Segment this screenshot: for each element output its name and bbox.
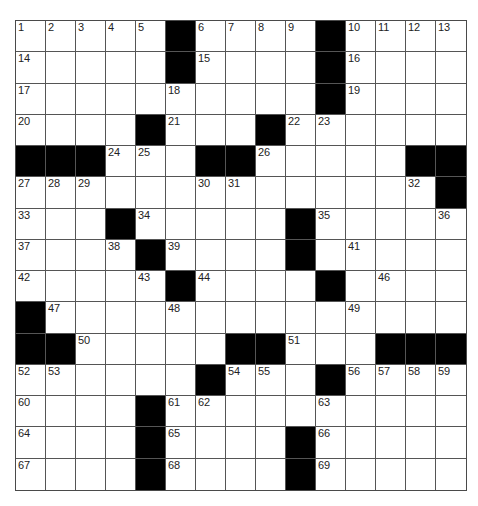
letter-cell[interactable] xyxy=(406,52,436,83)
letter-cell[interactable] xyxy=(76,365,106,396)
letter-cell[interactable]: 49 xyxy=(346,302,376,333)
letter-cell[interactable] xyxy=(136,84,166,115)
letter-cell[interactable]: 53 xyxy=(46,365,76,396)
letter-cell[interactable] xyxy=(286,177,316,208)
letter-cell[interactable]: 47 xyxy=(46,302,76,333)
letter-cell[interactable] xyxy=(436,459,466,490)
letter-cell[interactable] xyxy=(256,459,286,490)
letter-cell[interactable]: 68 xyxy=(166,459,196,490)
letter-cell[interactable] xyxy=(136,52,166,83)
letter-cell[interactable] xyxy=(106,427,136,458)
letter-cell[interactable] xyxy=(256,271,286,302)
letter-cell[interactable] xyxy=(226,427,256,458)
letter-cell[interactable] xyxy=(136,365,166,396)
letter-cell[interactable]: 16 xyxy=(346,52,376,83)
letter-cell[interactable] xyxy=(436,240,466,271)
letter-cell[interactable]: 7 xyxy=(226,21,256,52)
letter-cell[interactable] xyxy=(406,459,436,490)
letter-cell[interactable]: 12 xyxy=(406,21,436,52)
letter-cell[interactable]: 24 xyxy=(106,146,136,177)
letter-cell[interactable] xyxy=(406,427,436,458)
letter-cell[interactable] xyxy=(406,396,436,427)
letter-cell[interactable] xyxy=(376,302,406,333)
letter-cell[interactable] xyxy=(76,84,106,115)
letter-cell[interactable] xyxy=(376,52,406,83)
letter-cell[interactable] xyxy=(106,396,136,427)
letter-cell[interactable]: 31 xyxy=(226,177,256,208)
letter-cell[interactable] xyxy=(106,115,136,146)
letter-cell[interactable]: 2 xyxy=(46,21,76,52)
letter-cell[interactable]: 6 xyxy=(196,21,226,52)
letter-cell[interactable] xyxy=(376,459,406,490)
letter-cell[interactable] xyxy=(346,177,376,208)
letter-cell[interactable] xyxy=(106,365,136,396)
letter-cell[interactable] xyxy=(196,115,226,146)
letter-cell[interactable]: 55 xyxy=(256,365,286,396)
letter-cell[interactable] xyxy=(316,240,346,271)
letter-cell[interactable] xyxy=(406,302,436,333)
letter-cell[interactable]: 60 xyxy=(16,396,46,427)
letter-cell[interactable] xyxy=(76,459,106,490)
letter-cell[interactable] xyxy=(46,115,76,146)
letter-cell[interactable]: 50 xyxy=(76,334,106,365)
letter-cell[interactable]: 29 xyxy=(76,177,106,208)
letter-cell[interactable] xyxy=(76,240,106,271)
letter-cell[interactable] xyxy=(346,146,376,177)
letter-cell[interactable]: 59 xyxy=(436,365,466,396)
letter-cell[interactable] xyxy=(376,396,406,427)
letter-cell[interactable] xyxy=(376,84,406,115)
letter-cell[interactable] xyxy=(196,334,226,365)
letter-cell[interactable] xyxy=(226,52,256,83)
letter-cell[interactable] xyxy=(226,84,256,115)
letter-cell[interactable] xyxy=(46,209,76,240)
letter-cell[interactable] xyxy=(286,271,316,302)
letter-cell[interactable] xyxy=(106,84,136,115)
letter-cell[interactable]: 54 xyxy=(226,365,256,396)
letter-cell[interactable] xyxy=(316,334,346,365)
letter-cell[interactable] xyxy=(256,396,286,427)
letter-cell[interactable]: 13 xyxy=(436,21,466,52)
letter-cell[interactable] xyxy=(376,427,406,458)
letter-cell[interactable]: 33 xyxy=(16,209,46,240)
letter-cell[interactable]: 17 xyxy=(16,84,46,115)
letter-cell[interactable] xyxy=(256,302,286,333)
letter-cell[interactable] xyxy=(226,302,256,333)
letter-cell[interactable] xyxy=(406,209,436,240)
letter-cell[interactable] xyxy=(436,84,466,115)
letter-cell[interactable] xyxy=(406,271,436,302)
letter-cell[interactable] xyxy=(256,84,286,115)
letter-cell[interactable]: 4 xyxy=(106,21,136,52)
letter-cell[interactable] xyxy=(286,52,316,83)
letter-cell[interactable] xyxy=(196,427,226,458)
letter-cell[interactable]: 65 xyxy=(166,427,196,458)
letter-cell[interactable] xyxy=(106,334,136,365)
letter-cell[interactable] xyxy=(346,271,376,302)
letter-cell[interactable] xyxy=(346,209,376,240)
letter-cell[interactable] xyxy=(136,334,166,365)
letter-cell[interactable]: 3 xyxy=(76,21,106,52)
letter-cell[interactable] xyxy=(76,115,106,146)
letter-cell[interactable] xyxy=(46,52,76,83)
letter-cell[interactable] xyxy=(316,302,346,333)
letter-cell[interactable] xyxy=(106,271,136,302)
letter-cell[interactable]: 56 xyxy=(346,365,376,396)
letter-cell[interactable] xyxy=(196,240,226,271)
letter-cell[interactable]: 25 xyxy=(136,146,166,177)
letter-cell[interactable]: 48 xyxy=(166,302,196,333)
letter-cell[interactable] xyxy=(106,52,136,83)
letter-cell[interactable] xyxy=(226,209,256,240)
letter-cell[interactable]: 69 xyxy=(316,459,346,490)
letter-cell[interactable]: 62 xyxy=(196,396,226,427)
letter-cell[interactable] xyxy=(226,396,256,427)
letter-cell[interactable] xyxy=(166,146,196,177)
letter-cell[interactable]: 1 xyxy=(16,21,46,52)
letter-cell[interactable]: 19 xyxy=(346,84,376,115)
letter-cell[interactable]: 51 xyxy=(286,334,316,365)
letter-cell[interactable] xyxy=(76,396,106,427)
letter-cell[interactable]: 18 xyxy=(166,84,196,115)
letter-cell[interactable]: 41 xyxy=(346,240,376,271)
letter-cell[interactable] xyxy=(256,52,286,83)
letter-cell[interactable]: 28 xyxy=(46,177,76,208)
letter-cell[interactable] xyxy=(196,302,226,333)
letter-cell[interactable]: 5 xyxy=(136,21,166,52)
